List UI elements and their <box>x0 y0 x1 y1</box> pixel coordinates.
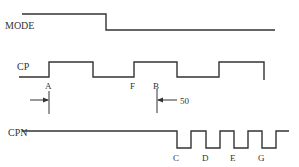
signal-cpn: CPN <box>8 127 289 148</box>
point-label-b: B <box>153 81 159 91</box>
point-label-d: D <box>202 153 209 163</box>
waveform-mode <box>22 14 275 30</box>
point-label-g: G <box>258 153 265 163</box>
annotation-50: 50 <box>180 96 190 106</box>
timing-diagram: MODE CP CPN A F B C D E G 50 <box>0 0 299 167</box>
signal-label-cpn: CPN <box>8 127 27 138</box>
point-labels: A F B C D E G <box>45 81 265 163</box>
marker-a <box>30 91 49 114</box>
waveform-cpn <box>22 131 289 148</box>
point-label-c: C <box>173 153 179 163</box>
point-label-a: A <box>45 81 52 91</box>
signal-mode: MODE <box>5 14 275 31</box>
signal-label-cp: CP <box>17 61 30 72</box>
signal-label-mode: MODE <box>5 20 34 31</box>
point-label-e: E <box>230 153 236 163</box>
signal-cp: CP <box>17 61 264 80</box>
marker-b <box>157 89 177 113</box>
waveform-cp <box>19 62 264 80</box>
point-label-f: F <box>130 81 135 91</box>
